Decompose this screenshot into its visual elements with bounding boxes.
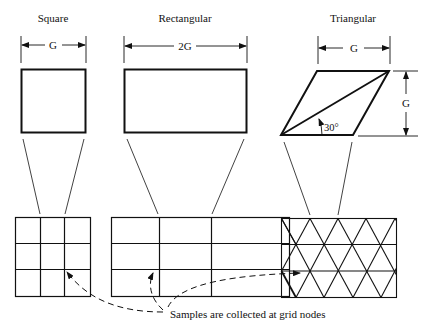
triangular-projection-lines bbox=[284, 142, 352, 215]
triangular-grid bbox=[282, 219, 397, 298]
square-projection-lines bbox=[23, 139, 84, 214]
sampling-grid-diagram: Square G Rectangular bbox=[0, 0, 427, 330]
angle-arc bbox=[319, 119, 322, 135]
annotation-text: Samples are collected at grid nodes bbox=[170, 308, 325, 320]
square-cell bbox=[22, 70, 86, 133]
angle-label: 30° bbox=[324, 122, 339, 133]
rectangular-title: Rectangular bbox=[158, 12, 211, 24]
square-panel: Square G bbox=[16, 12, 91, 297]
square-grid bbox=[16, 218, 91, 297]
rectangular-grid bbox=[112, 218, 290, 297]
square-title: Square bbox=[38, 12, 69, 24]
square-dimension-label: G bbox=[49, 39, 57, 51]
rectangular-projection-lines bbox=[127, 139, 244, 214]
triangular-width-label: G bbox=[350, 42, 358, 54]
triangular-title: Triangular bbox=[330, 12, 376, 24]
rectangular-dimension-label: 2G bbox=[178, 40, 192, 52]
annotation-arrows bbox=[67, 272, 300, 312]
triangular-panel: Triangular G 30° G bbox=[281, 12, 418, 298]
rectangular-cell bbox=[125, 70, 247, 133]
triangular-height-label: G bbox=[402, 97, 410, 109]
rectangular-panel: Rectangular 2G bbox=[112, 12, 290, 297]
